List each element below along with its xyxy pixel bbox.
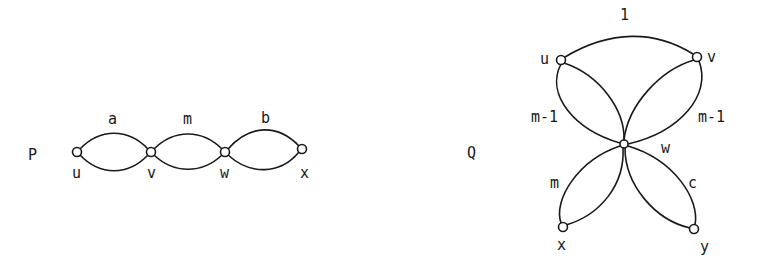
edge-label-m: m [550, 174, 559, 192]
vertex-label-q-u: u [540, 50, 549, 68]
vertex-q-y [690, 225, 699, 234]
vertex-q-w [620, 140, 628, 148]
edge-q-v-w [624, 60, 702, 144]
edge-label-m-1-left: m-1 [531, 108, 558, 126]
edge-q-w-y [625, 146, 696, 228]
vertex-label-u: u [72, 164, 81, 182]
vertex-label-q-x: x [557, 236, 566, 254]
vertex-q-x [559, 223, 568, 232]
graph-p: P a m b u v w x [28, 109, 309, 182]
vertex-label-q-y: y [700, 238, 709, 256]
vertex-p-x [298, 145, 307, 154]
edge-label-a: a [108, 110, 117, 128]
edge-label-1: 1 [620, 6, 629, 24]
graph-q: Q 1 m-1 m-1 m c u [467, 6, 725, 256]
edge-q-w-x [560, 146, 624, 225]
vertex-label-x: x [300, 164, 309, 182]
vertex-q-u [557, 56, 566, 65]
edge-label-c: c [688, 174, 697, 192]
edge-p-v-w [154, 134, 222, 169]
edge-label-m: m [183, 110, 192, 128]
vertex-label-v: v [147, 164, 156, 182]
vertex-p-v [147, 148, 156, 157]
vertex-label-q-v: v [707, 48, 716, 66]
vertex-p-w [221, 148, 230, 157]
edge-p-w-x [228, 130, 299, 170]
vertex-q-v [693, 53, 702, 62]
graph-p-name: P [28, 146, 37, 164]
vertex-label-w: w [220, 164, 230, 182]
graph-q-name: Q [467, 144, 476, 162]
edge-q-u-w [557, 63, 624, 143]
edge-label-b: b [261, 109, 270, 127]
edge-label-m-1-right: m-1 [698, 108, 725, 126]
vertex-p-u [73, 148, 82, 157]
vertex-label-q-w: w [661, 139, 671, 157]
edge-p-u-v [80, 133, 148, 171]
edge-q-u-v [565, 36, 693, 57]
diagram-canvas: P a m b u v w x Q [0, 0, 758, 265]
